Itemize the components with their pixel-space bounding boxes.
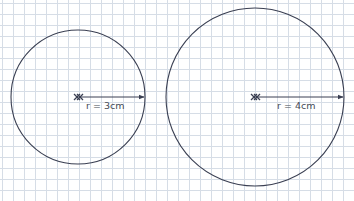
circles-diagram: r = 3cm r = 4cm — [0, 0, 354, 201]
radius-label: r = 4cm — [277, 100, 315, 111]
large-circle: r = 4cm — [166, 8, 344, 186]
radius-label: r = 3cm — [86, 100, 124, 111]
small-circle: r = 3cm — [11, 30, 145, 164]
